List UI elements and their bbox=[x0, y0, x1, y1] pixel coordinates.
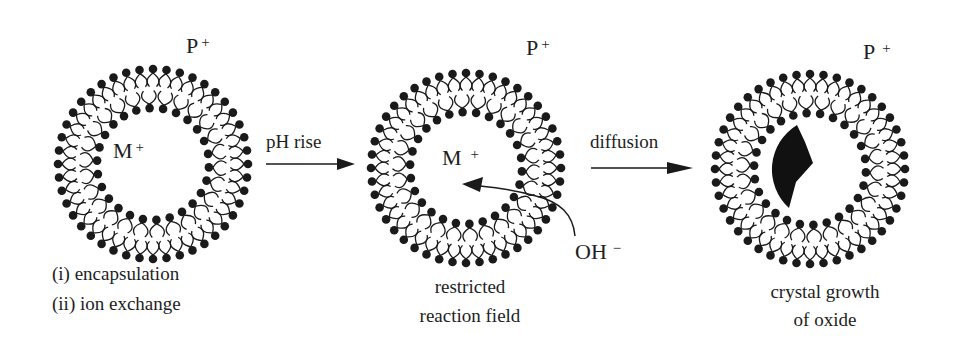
caption-stage-3-line-1: crystal growth bbox=[740, 281, 910, 303]
caption-stage-2-line-1: restricted bbox=[405, 276, 535, 298]
ion-symbol: P bbox=[186, 33, 198, 58]
ion-charge: + bbox=[541, 36, 549, 52]
caption-stage-3-line-2: of oxide bbox=[740, 309, 910, 331]
oxide-crystal bbox=[772, 125, 813, 208]
arrow-label-ph-rise: pH rise bbox=[266, 131, 321, 153]
caption-stage-1-line-1: (i) encapsulation bbox=[52, 263, 179, 285]
p-ion-label-1: P+ bbox=[186, 34, 210, 58]
p-ion-label-2: P+ bbox=[526, 36, 550, 60]
ion-charge: + bbox=[136, 139, 144, 155]
ion-charge: + bbox=[882, 40, 890, 56]
ion-symbol: M bbox=[442, 145, 462, 170]
arrow-label-diffusion: diffusion bbox=[590, 131, 658, 153]
ion-symbol: P bbox=[526, 35, 538, 60]
caption-stage-2-line-2: reaction field bbox=[395, 305, 545, 327]
oh-arrow-head bbox=[462, 177, 483, 192]
vesicle-1 bbox=[54, 65, 253, 264]
ion-symbol: P bbox=[863, 39, 875, 64]
vesicle-3 bbox=[711, 70, 910, 269]
arrow-diffusion-head bbox=[667, 162, 693, 174]
p-ion-label-3: P+ bbox=[863, 40, 891, 64]
ion-symbol: M bbox=[113, 138, 133, 163]
ion-charge: + bbox=[201, 34, 209, 50]
m-ion-label-1: M+ bbox=[113, 139, 144, 163]
ion-charge: − bbox=[613, 240, 621, 256]
ion-symbol: OH bbox=[575, 239, 607, 264]
m-ion-label-2: M+ bbox=[442, 146, 479, 170]
caption-stage-1-line-2: (ii) ion exchange bbox=[52, 293, 181, 315]
arrow-ph-rise-head bbox=[337, 158, 355, 170]
ion-charge: + bbox=[471, 146, 479, 162]
oh-ion-label: OH− bbox=[575, 240, 621, 264]
